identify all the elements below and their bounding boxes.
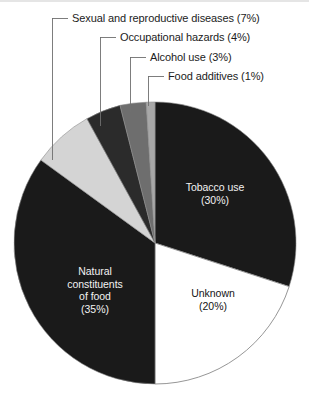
slice-label-tobacco-use: Tobacco use (30%) bbox=[175, 181, 255, 206]
slice-label-tobacco-use-percent: (30%) bbox=[175, 194, 255, 207]
slice-label-unknown-name: Unknown bbox=[174, 287, 252, 300]
callout-label-sexual-and-reproductive-diseases: Sexual and reproductive diseases (7%) bbox=[72, 12, 260, 24]
leader-line-food-additives bbox=[148, 76, 164, 106]
callout-label-alcohol-use: Alcohol use (3%) bbox=[150, 51, 232, 63]
slice-label-unknown: Unknown (20%) bbox=[174, 287, 252, 312]
slice-label-natural-line-3: of food bbox=[53, 290, 137, 303]
slice-label-natural-line-1: Natural bbox=[53, 265, 137, 278]
slice-label-natural-line-2: constituents bbox=[53, 278, 137, 291]
callout-label-occupational-hazards: Occupational hazards (4%) bbox=[120, 31, 250, 43]
slice-label-natural-constituents-of-food: Natural constituents of food (35%) bbox=[53, 265, 137, 315]
slice-label-natural-percent: (35%) bbox=[53, 303, 137, 316]
slice-label-tobacco-use-name: Tobacco use bbox=[175, 181, 255, 194]
callout-label-food-additives: Food additives (1%) bbox=[168, 70, 264, 82]
pie-chart-figure: Sexual and reproductive diseases (7%) Oc… bbox=[0, 0, 309, 408]
slice-label-unknown-percent: (20%) bbox=[174, 300, 252, 313]
